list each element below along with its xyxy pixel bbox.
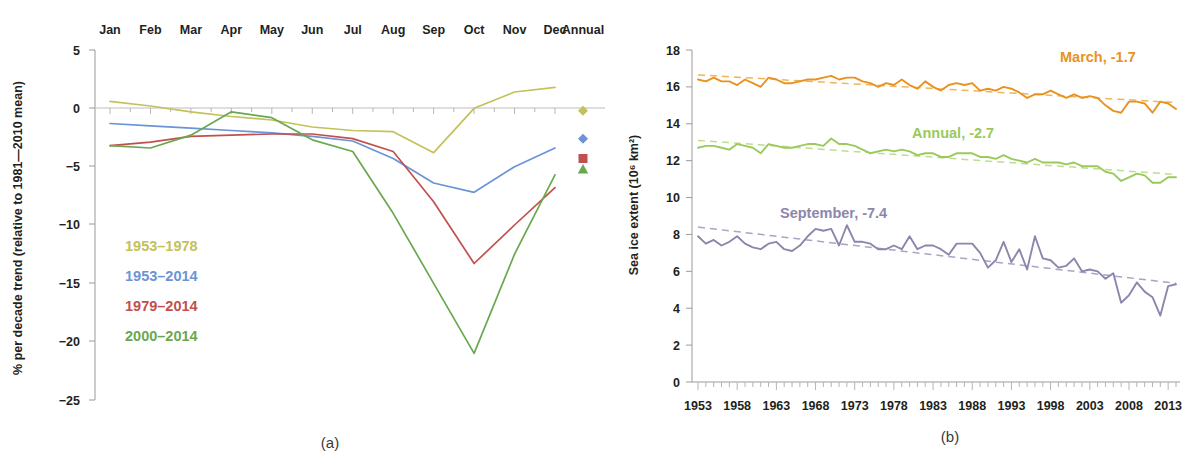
panel-a-ytick-0: 5 bbox=[73, 44, 80, 58]
panel-b-xtick-2008: 2008 bbox=[1115, 399, 1143, 413]
panel-b-annotation-1: Annual, -2.7 bbox=[912, 125, 994, 141]
panel-a-legend-item-2: 1979–2014 bbox=[125, 298, 198, 314]
panel-b-caption: (b) bbox=[941, 428, 959, 445]
panel-b-xtick-2003: 2003 bbox=[1076, 399, 1104, 413]
panel-b-ytick-4: 4 bbox=[673, 302, 680, 316]
panel-a-x-ticks bbox=[110, 108, 555, 114]
panel-a-y-ticks: 5 0 −5 −10 −15 −20 −25 bbox=[59, 44, 95, 408]
panel-a-month-jan: Jan bbox=[99, 23, 121, 37]
panel-a-month-mar: Mar bbox=[180, 23, 202, 37]
panel-b-x-labels: 1953195819631968197319781983198819931998… bbox=[684, 399, 1182, 413]
panel-b-xtick-1993: 1993 bbox=[998, 399, 1026, 413]
panel-a-month-jun: Jun bbox=[301, 23, 323, 37]
panel-a-annual-markers bbox=[578, 106, 588, 174]
panel-b-xtick-1978: 1978 bbox=[880, 399, 908, 413]
panel-b-line-march bbox=[698, 76, 1176, 113]
panel-a-x-labels: JanFebMarAprMayJunJulAugSepOctNovDecAnnu… bbox=[99, 23, 604, 37]
panel-b-annotation-0: March, -1.7 bbox=[1060, 49, 1136, 65]
panel-a-month-nov: Nov bbox=[503, 23, 527, 37]
panel-a-caption: (a) bbox=[321, 434, 339, 451]
panel-a-ylabel: % per decade trend (relative to 1981—201… bbox=[11, 81, 25, 375]
panel-a-annual-marker-2000-2014 bbox=[578, 164, 588, 174]
panel-b-series-lines bbox=[698, 76, 1176, 316]
panel-b-xtick-1983: 1983 bbox=[919, 399, 947, 413]
panel-b-trend-lines bbox=[698, 75, 1176, 283]
panel-b-trend-annual bbox=[698, 140, 1176, 174]
panel-b-xtick-1968: 1968 bbox=[802, 399, 830, 413]
panel-b-xtick-1988: 1988 bbox=[958, 399, 986, 413]
panel-a-line-1953-1978 bbox=[110, 87, 555, 152]
panel-b-ytick-8: 8 bbox=[673, 228, 680, 242]
panel-b-x-ticks bbox=[698, 382, 1176, 390]
panel-a-month-annual: Annual bbox=[562, 23, 604, 37]
panel-a-ytick-1: 0 bbox=[73, 102, 80, 116]
panel-b-line-september bbox=[698, 225, 1176, 315]
panel-b-trend-september bbox=[698, 227, 1176, 283]
panel-b-ylabel: Sea ice extent (10⁶ km²) bbox=[627, 135, 641, 276]
panel-a-month-feb: Feb bbox=[139, 23, 162, 37]
panel-a-legend-item-0: 1953–1978 bbox=[125, 238, 198, 254]
panel-b-xtick-1973: 1973 bbox=[841, 399, 869, 413]
figure-container: % per decade trend (relative to 1981—201… bbox=[0, 0, 1187, 469]
panel-a-ytick-5: −20 bbox=[59, 335, 80, 349]
panel-b-ytick-18: 18 bbox=[666, 44, 680, 58]
panel-b-ytick-14: 14 bbox=[666, 117, 680, 131]
panel-b-line-annual bbox=[698, 139, 1176, 183]
panel-b-xtick-1958: 1958 bbox=[723, 399, 751, 413]
panel-a: % per decade trend (relative to 1981—201… bbox=[0, 0, 620, 469]
panel-a-legend: 1953–19781953–20141979–20142000–2014 bbox=[125, 238, 198, 344]
panel-a-legend-item-3: 2000–2014 bbox=[125, 328, 198, 344]
panel-b-ytick-10: 10 bbox=[666, 191, 680, 205]
panel-b-ytick-0: 0 bbox=[673, 376, 680, 390]
panel-a-line-2000-2014 bbox=[110, 112, 555, 354]
panel-b-xtick-1998: 1998 bbox=[1037, 399, 1065, 413]
panel-a-ytick-4: −15 bbox=[59, 277, 80, 291]
panel-a-month-jul: Jul bbox=[344, 23, 362, 37]
panel-a-annual-marker-1979-2014 bbox=[579, 154, 588, 163]
panel-b-ytick-16: 16 bbox=[666, 80, 680, 94]
panel-a-annual-marker-1953-1978 bbox=[578, 106, 588, 116]
panel-b-xtick-1963: 1963 bbox=[762, 399, 790, 413]
panel-a-month-oct: Oct bbox=[464, 23, 486, 37]
panel-b-xtick-1953: 1953 bbox=[684, 399, 712, 413]
panel-a-ytick-6: −25 bbox=[59, 394, 80, 408]
panel-a-month-sep: Sep bbox=[422, 23, 445, 37]
panel-b-ytick-6: 6 bbox=[673, 265, 680, 279]
panel-a-annual-marker-1953-2014 bbox=[578, 134, 588, 144]
panel-a-ytick-3: −10 bbox=[59, 218, 80, 232]
panel-a-month-apr: Apr bbox=[221, 23, 243, 37]
panel-a-month-may: May bbox=[260, 23, 284, 37]
panel-b: Sea ice extent (10⁶ km²) 181614121086420… bbox=[620, 0, 1187, 469]
panel-b-xtick-2013: 2013 bbox=[1154, 399, 1182, 413]
panel-b-ytick-12: 12 bbox=[666, 154, 680, 168]
panel-b-y-ticks: 181614121086420 bbox=[666, 44, 692, 390]
panel-a-line-1953-2014 bbox=[110, 124, 555, 193]
panel-b-svg: Sea ice extent (10⁶ km²) 181614121086420… bbox=[620, 0, 1187, 469]
panel-a-ytick-2: −5 bbox=[66, 160, 80, 174]
panel-b-annotation-2: September, -7.4 bbox=[780, 205, 887, 221]
panel-b-ytick-2: 2 bbox=[673, 339, 680, 353]
panel-a-legend-item-1: 1953–2014 bbox=[125, 268, 198, 284]
panel-b-annotations: March, -1.7Annual, -2.7September, -7.4 bbox=[780, 49, 1136, 221]
panel-a-svg: % per decade trend (relative to 1981—201… bbox=[0, 0, 620, 469]
panel-a-month-aug: Aug bbox=[381, 23, 405, 37]
